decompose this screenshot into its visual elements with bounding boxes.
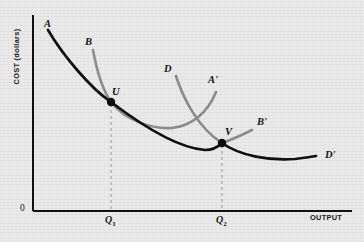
curve-label-d-prime: D'	[325, 149, 336, 160]
xtick-q1-sub: 1	[112, 220, 116, 228]
tangency-point-u	[107, 98, 115, 106]
tangency-point-v	[218, 139, 226, 147]
curve-label-a: A	[44, 18, 51, 29]
xtick-label-q1: Q1	[105, 214, 116, 228]
cost-output-plot	[0, 0, 364, 242]
x-axis-title: OUTPUT	[310, 213, 342, 222]
short-run-curve-2	[176, 76, 252, 143]
point-label-u: U	[112, 86, 120, 97]
origin-label: 0	[20, 203, 25, 213]
curve-label-b: B	[85, 36, 92, 47]
curve-label-b-prime: B'	[257, 116, 267, 127]
xtick-label-q2: Q2	[216, 214, 227, 228]
xtick-q2-sub: 2	[223, 220, 227, 228]
y-axis-title: COST (dollars)	[12, 21, 21, 93]
curve-label-a-prime: A'	[208, 74, 218, 85]
curve-label-d: D	[164, 63, 172, 74]
point-label-v: V	[225, 126, 232, 137]
figure-canvas: COST (dollars) OUTPUT 0 Q1 Q2 A B D A' B…	[0, 0, 364, 242]
